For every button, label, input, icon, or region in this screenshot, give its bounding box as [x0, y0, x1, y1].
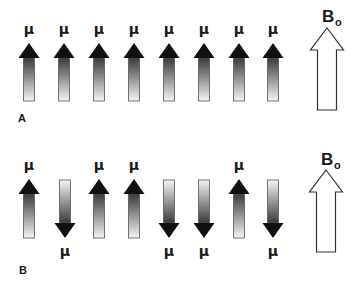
panel-b: μμμμμμμμBoB — [19, 150, 343, 276]
spin-arrow-down-icon: μ — [159, 180, 180, 259]
field-label: B — [322, 7, 334, 26]
spin-label: μ — [199, 243, 209, 259]
panel-label: B — [19, 264, 27, 276]
panel-a: μμμμμμμμBoA — [18, 7, 344, 124]
spin-label: μ — [24, 21, 34, 37]
spin-label: μ — [268, 243, 278, 259]
spin-alignment-diagram: μμμμμμμμBoAμμμμμμμμBoB — [0, 0, 358, 282]
spin-arrow-up-icon: μ — [229, 21, 250, 101]
spin-arrow-up-icon: μ — [124, 157, 145, 238]
spin-arrow-up-icon: μ — [89, 157, 110, 238]
spin-arrow-up-icon: μ — [19, 157, 40, 238]
field-label: B — [321, 150, 333, 169]
spin-arrow-down-icon: μ — [263, 180, 284, 259]
spin-label: μ — [164, 21, 174, 37]
spin-arrow-up-icon: μ — [159, 21, 180, 101]
panels-root: μμμμμμμμBoAμμμμμμμμBoB — [18, 7, 344, 276]
field-label-subscript: o — [334, 159, 341, 171]
magnetic-field-arrow-icon: Bo — [311, 7, 344, 110]
magnetic-field-arrow-icon: Bo — [310, 150, 343, 252]
spin-label: μ — [94, 21, 104, 37]
spin-label: μ — [199, 21, 209, 37]
spin-label: μ — [164, 243, 174, 259]
spin-label: μ — [24, 157, 34, 173]
spin-arrow-up-icon: μ — [229, 157, 250, 238]
spin-label: μ — [59, 21, 69, 37]
spin-label: μ — [234, 157, 244, 173]
spin-arrow-up-icon: μ — [263, 21, 284, 101]
spin-arrow-up-icon: μ — [19, 21, 40, 101]
spin-arrow-up-icon: μ — [194, 21, 215, 101]
spin-label: μ — [60, 243, 70, 259]
spin-arrow-up-icon: μ — [89, 21, 110, 101]
spin-label: μ — [234, 21, 244, 37]
spin-arrow-up-icon: μ — [54, 21, 75, 101]
spin-label: μ — [129, 21, 139, 37]
spin-arrow-up-icon: μ — [124, 21, 145, 101]
spin-arrow-down-icon: μ — [55, 180, 76, 259]
field-label-subscript: o — [335, 16, 342, 28]
spin-label: μ — [94, 157, 104, 173]
panel-label: A — [18, 112, 26, 124]
spin-arrow-down-icon: μ — [194, 180, 215, 259]
spin-label: μ — [129, 157, 139, 173]
spin-label: μ — [268, 21, 278, 37]
